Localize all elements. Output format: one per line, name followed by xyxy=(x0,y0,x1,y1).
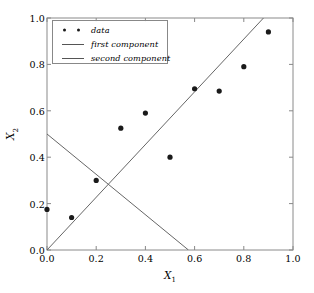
data-point-marker xyxy=(241,64,246,69)
data-point-marker xyxy=(217,88,222,93)
x-tick-label: 0.6 xyxy=(187,253,202,264)
y-tick-label: 0.8 xyxy=(30,59,45,70)
legend-line-icon xyxy=(62,44,84,45)
legend-entry-second-component: second component xyxy=(53,51,167,65)
legend-label-data: data xyxy=(91,25,110,35)
legend-line-icon xyxy=(62,58,84,59)
data-point-marker xyxy=(44,207,49,212)
y-tick-label: 1.0 xyxy=(30,13,45,24)
y-tick-label: 0.2 xyxy=(30,198,45,209)
legend-entry-first-component: first component xyxy=(53,37,167,51)
x-tick-label: 1.0 xyxy=(285,253,300,264)
data-point-marker xyxy=(192,86,197,91)
y-tick-label: 0.6 xyxy=(30,105,45,116)
y-tick-label: 0.4 xyxy=(30,152,45,163)
data-point-marker xyxy=(94,178,99,183)
legend-entry-data: data xyxy=(53,23,167,37)
legend-marker-dots xyxy=(57,24,91,36)
legend-label-second-component: second component xyxy=(91,53,170,63)
y-axis-title-sub: 2 xyxy=(12,128,20,132)
x-axis-title: X1 xyxy=(164,269,176,284)
legend-marker-line xyxy=(57,52,91,64)
data-point-marker xyxy=(167,155,172,160)
x-tick-label: 0.8 xyxy=(236,253,251,264)
legend-dot-icon xyxy=(63,28,66,31)
y-axis-title-text: X xyxy=(4,132,16,139)
legend-label-first-component: first component xyxy=(91,39,158,49)
legend-box: data first component second component xyxy=(52,20,168,64)
data-point-marker xyxy=(143,111,148,116)
data-point-marker xyxy=(266,29,271,34)
x-axis-title-sub: 1 xyxy=(172,276,176,284)
legend-marker-line xyxy=(57,38,91,50)
legend-dot-icon xyxy=(77,28,80,31)
data-point-marker xyxy=(69,215,74,220)
y-tick-label: 0.0 xyxy=(30,245,45,256)
data-point-marker xyxy=(118,126,123,131)
scatter-plot-figure: 0.00.20.40.60.81.0 0.00.20.40.60.81.0 X1… xyxy=(0,0,314,293)
x-tick-label: 0.2 xyxy=(88,253,103,264)
x-tick-label: 0.4 xyxy=(138,253,153,264)
y-axis-title: X2 xyxy=(4,128,19,140)
